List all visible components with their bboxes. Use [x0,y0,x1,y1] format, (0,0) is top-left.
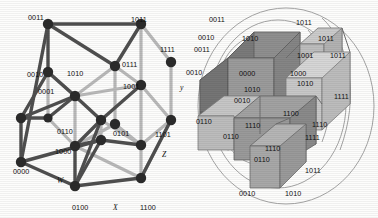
vertex-label: 1011 [305,167,321,174]
hypercube-vertices [16,19,176,191]
vertex-label: 0011 [28,14,44,21]
vertex-label: 1100 [283,110,299,117]
vertex-label: 1001 [297,52,313,59]
vertex-label: 1111 [305,134,320,141]
vertex-label: 0101 [113,130,129,137]
figure-hypercube: 0011101111110010101001111001000101100101… [0,0,378,218]
vertex-label: 1011 [330,52,346,59]
hypercube-front-edges [21,24,171,186]
vertex-label: 0010 [27,71,43,78]
vertex-label: 0110 [254,156,270,163]
vertex-label: 0001 [38,88,54,95]
vertex-label: 1001 [123,83,139,90]
vertex-label: 1111 [334,93,349,100]
vertex-label: 1101 [155,131,171,138]
vertex-label: 0110 [57,128,73,135]
vertex-label: 0110 [196,118,212,125]
vertex-label: 0111 [122,61,137,68]
vertex-label: 1011 [296,19,312,26]
vertex-label: 0100 [72,204,88,211]
vertex-label: 0011 [194,46,210,53]
vertex-label: 1010 [242,35,258,42]
vertex-label: 0011 [209,16,225,23]
vertex-label: 0000 [239,70,255,77]
vertex-label: 1010 [285,190,301,197]
vertex-label: 1010 [244,86,260,93]
axis-label: X [113,204,118,212]
vertex-label: 0010 [239,190,255,197]
axis-label: W [57,177,63,185]
vertex-label: 1100 [140,204,156,211]
vertex-label: 0110 [223,133,239,140]
vertex-label: 0010 [234,97,250,104]
axis-label: y [180,84,183,92]
vertex-label: 1011 [131,16,147,23]
vertex-label: 1000 [55,148,71,155]
vertex-label: 0010 [186,69,202,76]
vertex-label: 0000 [13,168,29,175]
vertex-label: 1000 [290,70,306,77]
vertex-label: 1110 [265,145,280,152]
vertex-label: 1011 [318,35,334,42]
hypercube-graph-svg [0,0,190,218]
vertex-label: 1111 [160,46,175,53]
vertex-label: 0010 [198,34,214,41]
vertex-label: 1010 [67,70,83,77]
vertex-label: 1110 [312,121,327,128]
vertex-label: 1010 [297,80,313,87]
axis-label: Z [162,151,166,159]
vertex-label: 1110 [245,122,260,129]
